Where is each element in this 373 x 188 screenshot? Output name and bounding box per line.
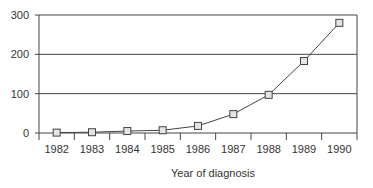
y-tick-label: 300 [11,9,29,21]
y-tick-label: 200 [11,48,29,60]
x-tick-label: 1986 [186,143,210,155]
square-marker [124,128,131,135]
gridlines [39,15,357,94]
x-tick-label: 1990 [327,143,351,155]
data-series [53,19,343,136]
x-tick-label: 1983 [80,143,104,155]
x-tick-label: 1982 [44,143,68,155]
x-axis-ticks: 198219831984198519861987198819891990 [39,133,357,155]
x-tick-label: 1988 [256,143,280,155]
x-tick-label: 1985 [150,143,174,155]
series-line [57,23,340,133]
square-marker [230,111,237,118]
y-tick-label: 0 [23,127,29,139]
square-marker [89,129,96,136]
y-axis-ticks: 0100200300 [11,9,39,139]
square-marker [336,19,343,26]
x-tick-label: 1989 [292,143,316,155]
square-marker [265,91,272,98]
square-marker [159,127,166,134]
square-marker [195,122,202,129]
square-marker [301,58,308,65]
x-tick-label: 1987 [221,143,245,155]
x-axis-title: Year of diagnosis [171,167,255,179]
y-tick-label: 100 [11,88,29,100]
axes [39,15,357,133]
line-chart: 0100200300 19821983198419851986198719881… [0,0,373,188]
x-tick-label: 1984 [115,143,139,155]
square-marker [53,129,60,136]
